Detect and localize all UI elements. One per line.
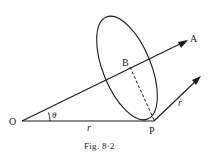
- figure-diagram: O A B P θ r ṙ Fig. 8·2: [0, 0, 208, 164]
- label-p: P: [149, 125, 155, 136]
- label-a: A: [190, 33, 198, 44]
- label-b: B: [122, 57, 129, 68]
- velocity-vector: [154, 78, 199, 121]
- angle-arc: [49, 113, 51, 122]
- label-theta: θ: [52, 110, 57, 120]
- arrowhead-a-icon: [178, 40, 188, 48]
- label-velocity: ṙ: [178, 97, 182, 108]
- figure-caption: Fig. 8·2: [84, 141, 115, 151]
- label-origin: O: [9, 116, 16, 127]
- circle-ellipse: [84, 8, 170, 128]
- line-oa: [22, 41, 186, 121]
- label-r: r: [87, 122, 91, 133]
- dashed-line-bp: [130, 67, 154, 120]
